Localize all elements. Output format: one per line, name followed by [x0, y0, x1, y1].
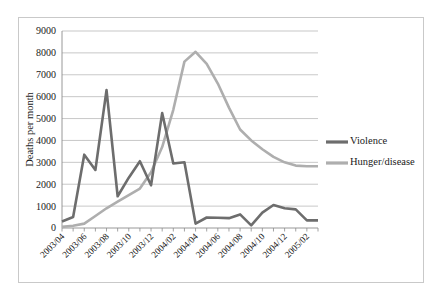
y-tick-label: 1000: [36, 201, 56, 212]
x-tick-label: 2005/02: [283, 231, 312, 260]
x-ticks: 2003/042003/062003/082003/102003/122004/…: [38, 228, 318, 260]
y-tick-label: 9000: [36, 25, 56, 36]
y-tick-label: 0: [51, 222, 56, 233]
y-tick-label: 7000: [36, 69, 56, 80]
legend-label-0: Violence: [350, 135, 388, 146]
y-tick-label: 6000: [36, 91, 56, 102]
y-tick-label: 5000: [36, 113, 56, 124]
line-chart: 0100020003000400050006000700080009000200…: [0, 0, 445, 300]
y-axis-title: Deaths per month: [24, 91, 35, 166]
y-tick-label: 2000: [36, 179, 56, 190]
legend-label-1: Hunger/disease: [350, 156, 415, 167]
y-tick-label: 8000: [36, 47, 56, 58]
chart-legend: ViolenceHunger/disease: [326, 135, 415, 167]
chart-figure: 0100020003000400050006000700080009000200…: [0, 0, 445, 300]
y-tick-label: 3000: [36, 157, 56, 168]
y-tick-label: 4000: [36, 135, 56, 146]
series-line-violence: [62, 90, 318, 225]
y-gridlines: 0100020003000400050006000700080009000: [36, 25, 318, 233]
